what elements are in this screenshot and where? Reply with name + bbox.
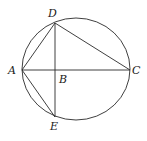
segments bbox=[22, 23, 130, 117]
label-point-d: D bbox=[47, 7, 57, 20]
geometry-diagram: A B C D E bbox=[0, 0, 147, 141]
segment-ae bbox=[22, 70, 55, 117]
label-point-e: E bbox=[49, 120, 58, 133]
circle bbox=[22, 18, 130, 120]
segment-dc bbox=[55, 23, 130, 70]
label-point-b: B bbox=[58, 73, 67, 86]
label-point-c: C bbox=[132, 64, 141, 77]
diagram-canvas: A B C D E bbox=[0, 0, 147, 141]
label-point-a: A bbox=[7, 64, 16, 77]
